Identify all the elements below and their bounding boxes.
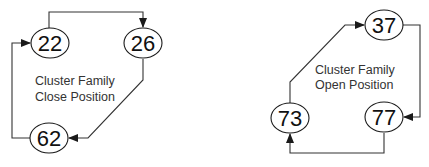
edge-37-to-77 [403,25,420,117]
cluster-family-diagrams: 22 26 62 Cluster Family Close Position 3… [0,0,429,167]
caption-line-2: Close Position [35,90,115,104]
open-position-diagram: 37 77 73 Cluster Family Open Position [271,10,420,153]
caption-line-1: Cluster Family [35,74,116,88]
node-label: 22 [38,31,62,56]
node-label: 73 [278,106,302,131]
node-73: 73 [271,103,309,133]
edge-62-to-22 [12,43,30,138]
node-26: 26 [124,28,162,58]
close-position-diagram: 22 26 62 Cluster Family Close Position [12,12,162,153]
caption-line-1: Cluster Family [315,63,396,77]
node-37: 37 [365,10,403,40]
edge-22-to-26 [49,12,143,28]
node-22: 22 [31,28,69,58]
node-label: 62 [37,126,61,151]
node-62: 62 [30,123,68,153]
caption-line-2: Open Position [315,78,394,92]
node-label: 77 [372,105,396,130]
node-label: 26 [131,31,155,56]
edge-77-to-73 [290,133,384,153]
node-77: 77 [365,102,403,132]
node-label: 37 [372,13,396,38]
